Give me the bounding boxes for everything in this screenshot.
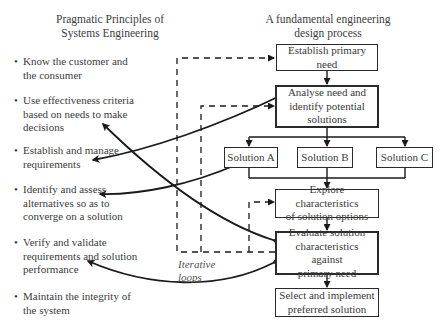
iterative-loops-label: Iterative loops <box>178 258 215 284</box>
step-solution-c: Solution C <box>376 147 433 168</box>
principle-manage-requirements: Establish and manage requirements <box>14 144 183 171</box>
step-analyse-need: Analyse need and identify potential solu… <box>275 85 379 128</box>
step-explore-characteristics: Explore characteristics of solution opti… <box>275 189 379 218</box>
principle-maintain-integrity: Maintain the integrity of the system <box>14 290 183 317</box>
principle-assess-alternatives: Identify and assess alternatives so as t… <box>14 183 183 224</box>
step-solution-a: Solution A <box>224 147 278 168</box>
principle-effectiveness-criteria: Use effectiveness criteria based on need… <box>14 94 183 135</box>
principle-verify-validate: Verify and validate requirements and sol… <box>14 236 183 277</box>
step-establish-need: Establish primary need <box>276 44 378 71</box>
step-solution-b: Solution B <box>297 147 353 168</box>
step-select-implement: Select and implement preferred solution <box>275 288 379 317</box>
step-evaluate-solution: Evaluate solution characteristics agains… <box>275 231 379 275</box>
principle-know-customer: Know the customer and the consumer <box>14 55 183 82</box>
